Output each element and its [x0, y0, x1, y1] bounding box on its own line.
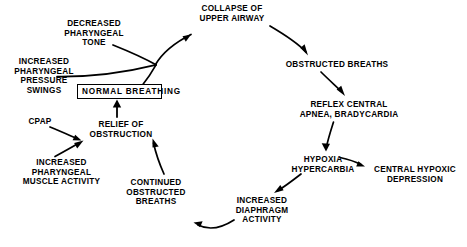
node-cpap: CPAP	[24, 117, 56, 127]
node-normal-breathing: NORMAL BREATHING	[77, 84, 162, 99]
node-reflex-central-apnea-bradycardia: REFLEX CENTRAL APNEA, BRADYCARDIA	[295, 100, 403, 119]
edge-muscle-activity-to-relief	[55, 141, 84, 157]
edge-collapse-to-obstructed-breaths	[270, 26, 308, 56]
edge-cpap-to-relief	[50, 127, 82, 141]
node-central-hypoxic-depression: CENTRAL HYPOXIC DEPRESSION	[370, 165, 460, 184]
osa-cycle-diagram: COLLAPSE OF UPPER AIRWAY DECREASED PHARY…	[0, 0, 467, 247]
node-relief-of-obstruction: RELIEF OF OBSTRUCTION	[87, 120, 155, 139]
edge-obstructed-breaths-to-reflex	[321, 72, 345, 96]
node-hypoxia-hypercarbia: HYPOXIA HYPERCARBIA	[290, 155, 356, 174]
edge-continued-breaths-to-relief	[153, 139, 165, 175]
node-decreased-pharyngeal-tone: DECREASED PHARYNGEAL TONE	[60, 19, 128, 48]
node-increased-pharyngeal-muscle-activity: INCREASED PHARYNGEAL MUSCLE ACTIVITY	[13, 158, 110, 187]
edge-normal-breathing-to-merge	[143, 65, 157, 85]
edge-reflex-to-hypoxia	[322, 122, 334, 152]
edge-relief-to-normal-breathing	[113, 100, 121, 118]
edge-merge-to-collapse	[156, 35, 192, 65]
node-increased-pharyngeal-pressure-swings: INCREASED PHARYNGEAL PRESSURE SWINGS	[10, 57, 78, 95]
node-continued-obstructed-breaths: CONTINUED OBSTRUCTED BREATHS	[121, 178, 191, 207]
edge-hypoxia-to-diaphragm	[274, 174, 301, 193]
node-collapse-upper-airway: COLLAPSE OF UPPER AIRWAY	[196, 4, 268, 23]
node-obstructed-breaths: OBSTRUCTED BREATHS	[281, 60, 393, 70]
node-increased-diaphragm-activity: INCREASED DIAPHRAGM ACTIVITY	[227, 196, 297, 225]
edge-decreased-tone-to-merge	[113, 45, 156, 65]
